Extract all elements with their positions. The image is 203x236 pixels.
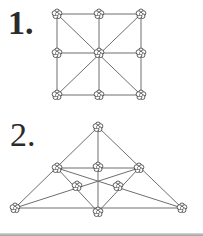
figure-2	[10, 122, 187, 217]
flower-icon	[52, 163, 62, 173]
flower-icon	[136, 9, 146, 19]
flower-icon	[136, 48, 146, 58]
flower-icon	[94, 90, 104, 100]
flower-icon	[93, 122, 103, 132]
flower-icon	[93, 162, 103, 172]
bottom-divider	[0, 233, 203, 236]
figure-1	[52, 9, 146, 100]
flower-icon	[113, 181, 123, 191]
flower-icon	[52, 48, 62, 58]
flower-icon	[72, 181, 82, 191]
flower-icon	[94, 48, 104, 58]
flower-icon	[52, 9, 62, 19]
flower-icon	[94, 9, 104, 19]
puzzle-diagram	[0, 0, 203, 236]
flower-icon	[134, 163, 144, 173]
